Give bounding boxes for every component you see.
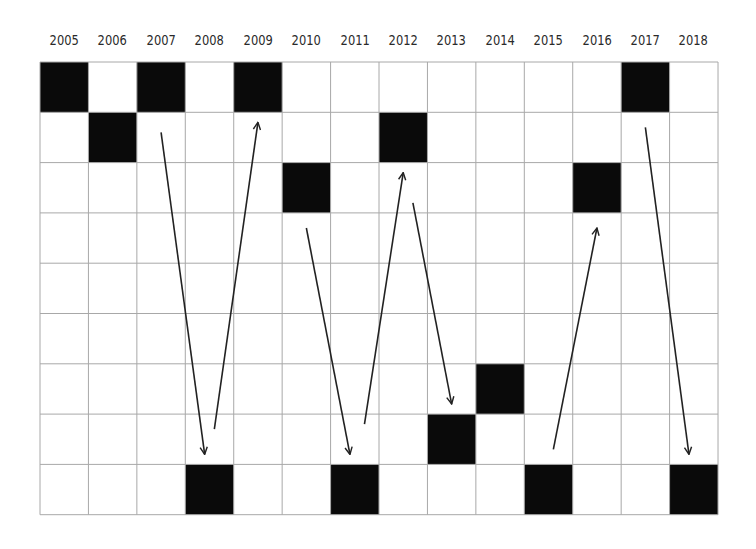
- filled-cell-2006: [88, 112, 136, 162]
- filled-cell-2007: [137, 62, 185, 112]
- filled-cell-2010: [282, 163, 330, 213]
- filled-cell-2018: [670, 464, 718, 514]
- arrow-up-icon: [553, 228, 597, 449]
- filled-cell-2013: [427, 414, 475, 464]
- filled-cell-2009: [234, 62, 282, 112]
- filled-cell-2015: [524, 464, 572, 514]
- filled-cell-2016: [573, 163, 621, 213]
- grid-lines: [40, 62, 718, 515]
- filled-cell-2014: [476, 364, 524, 414]
- filled-cell-2005: [40, 62, 88, 112]
- filled-cell-2008: [185, 464, 233, 514]
- arrow-down-icon: [413, 203, 452, 404]
- arrow-down-icon: [645, 127, 689, 454]
- arrow-up-icon: [214, 122, 258, 429]
- filled-cell-2011: [331, 464, 379, 514]
- filled-cell-2012: [379, 112, 427, 162]
- arrow-down-icon: [306, 228, 350, 454]
- zigzag-grid-diagram: [0, 0, 756, 549]
- arrow-down-icon: [161, 132, 205, 454]
- arrow-up-icon: [364, 173, 403, 425]
- filled-cell-2017: [621, 62, 669, 112]
